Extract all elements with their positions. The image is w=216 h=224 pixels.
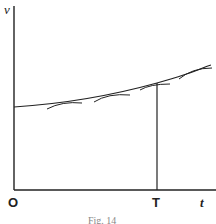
t-marker-label: T xyxy=(152,195,160,210)
velocity-curve xyxy=(14,65,211,107)
y-axis-label: v xyxy=(4,2,10,18)
figure-caption: Fig. 14 xyxy=(88,215,116,224)
velocity-time-graph xyxy=(0,0,216,224)
x-axis-label: t xyxy=(200,195,204,211)
origin-label: O xyxy=(8,195,18,210)
